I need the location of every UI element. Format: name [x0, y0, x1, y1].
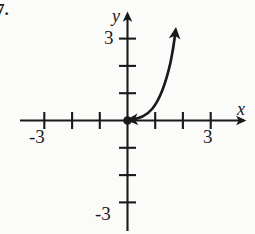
origin-point-marker [123, 116, 132, 125]
coordinate-plane-graph [0, 0, 255, 234]
problem-number-label: 7. [0, 1, 9, 18]
x-tick-label-3: 3 [203, 127, 213, 146]
x-tick-label-negative-3: -3 [29, 127, 45, 146]
math-figure: 7. y x 3 -3 -3 3 [0, 0, 255, 234]
x-axis-label: x [237, 100, 245, 118]
y-tick-label-negative-3: -3 [95, 204, 111, 223]
function-curve [130, 31, 176, 120]
y-axis-label: y [112, 7, 120, 25]
y-tick-label-3: 3 [104, 28, 114, 47]
